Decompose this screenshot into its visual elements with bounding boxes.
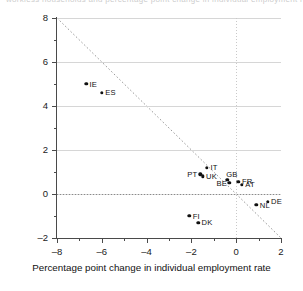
trend-line [57,18,281,238]
gridline-y [57,106,281,107]
x-axis-tick-label: –4 [127,246,167,257]
y-axis-tick [52,150,57,151]
x-axis-minor-tick [169,238,170,241]
x-axis-tick [102,238,103,243]
x-axis-tick [57,238,58,243]
zero-reference-line [57,194,281,195]
y-axis-tick-label: 4 [43,100,48,111]
y-axis-tick-label: 6 [43,56,48,67]
y-axis-tick-label: 2 [43,144,48,155]
plot-area: –202468–8–6–4–202IEESPTITUKGBBEFRATNLDEF… [57,18,281,238]
data-point-label-uk: UK [206,172,217,181]
x-axis-tick-label: –6 [82,246,122,257]
y-axis-tick-label: 0 [43,188,48,199]
cropped-caption-sliver: workless households and percentage point… [0,0,303,7]
x-axis-tick [147,238,148,243]
y-axis-tick [52,18,57,19]
scatter-plot-figure: workless households and percentage point… [0,0,303,291]
x-axis-tick-label: 0 [216,246,256,257]
x-axis-tick-label: 2 [261,246,301,257]
x-axis-title-text: Percentage point change in individual em… [32,262,271,273]
data-point-label-ie: IE [90,80,97,89]
y-axis-tick [52,62,57,63]
x-axis-tick-label: –2 [171,246,211,257]
data-point-label-at: AT [245,180,254,189]
y-axis-minor-tick [54,84,57,85]
y-axis-tick [52,106,57,107]
y-axis-tick-label: –2 [37,232,48,243]
x-axis-minor-tick [214,238,215,241]
data-point-label-de: DE [271,197,282,206]
data-point-label-pt: PT [187,170,197,179]
x-axis-title: Percentage point change in individual em… [0,262,303,273]
x-axis-minor-tick [79,238,80,241]
cropped-caption-text: workless households and percentage point… [6,0,303,4]
y-axis-minor-tick [54,40,57,41]
data-point-label-be: BE [216,179,226,188]
data-point-label-it: IT [211,163,218,172]
gridline-y [57,18,281,19]
y-axis-minor-tick [54,216,57,217]
y-axis-minor-tick [54,172,57,173]
y-axis-minor-tick [54,128,57,129]
data-point-label-gb: GB [226,170,237,179]
gridline-y [57,62,281,63]
x-axis-tick-label: –8 [37,246,77,257]
x-axis-tick [281,238,282,243]
data-point-label-fi: FI [193,212,200,221]
data-point-label-dk: DK [202,218,213,227]
x-axis-minor-tick [124,238,125,241]
x-axis-tick [236,238,237,243]
gridline-y [57,150,281,151]
data-point-label-es: ES [105,88,115,97]
y-axis-tick-label: 8 [43,12,48,23]
y-axis-tick [52,194,57,195]
gridline-x-zero [236,18,237,238]
x-axis-minor-tick [259,238,260,241]
x-axis-tick [191,238,192,243]
